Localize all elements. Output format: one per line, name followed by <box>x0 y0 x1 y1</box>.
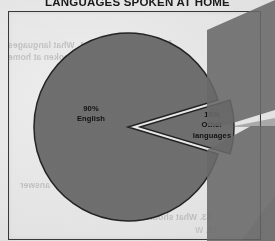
pie-label-other-percent: 10% <box>183 110 241 120</box>
chart-title: LANGUAGES SPOKEN AT HOME <box>0 0 275 7</box>
pie-label-other-languages: 10% Other languages <box>183 110 241 141</box>
pie-label-english-percent: 90% <box>60 104 122 114</box>
scanned-page: 11. What languages spoken at home 11. W … <box>0 0 275 241</box>
pie-label-other-name-line-2: languages <box>183 131 241 141</box>
pie-label-english: 90% English <box>60 104 122 125</box>
pie-label-other-name-line-1: Other <box>183 120 241 130</box>
pie-label-english-name: English <box>60 114 122 124</box>
